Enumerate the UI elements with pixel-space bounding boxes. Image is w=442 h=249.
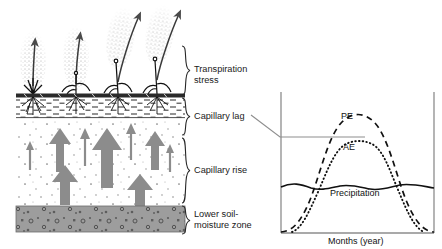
zone-label-line2: stress: [194, 75, 247, 86]
zone-label-capillary-lag: Capillary lag: [194, 111, 245, 122]
topsoil-hatch-band: [16, 97, 185, 118]
zone-label-line1: Lower soil-: [194, 209, 252, 220]
series-pe-curve: [281, 115, 434, 233]
hydrograph-chart: PE AE Precipitation: [278, 92, 440, 244]
zone-label-line2: moisture zone: [194, 220, 252, 231]
brace-transpiration-stress: [182, 46, 190, 95]
series-label-ae: AE: [343, 142, 355, 152]
series-label-precipitation: Precipitation: [330, 188, 380, 198]
zone-label-line1: Capillary lag: [194, 111, 245, 122]
zone-label-capillary-rise: Capillary rise: [194, 165, 247, 176]
zone-label-transpiration-stress: Transpiration stress: [194, 64, 247, 86]
series-label-pe: PE: [341, 111, 353, 121]
figure-root: Transpiration stress Capillary lag Capil…: [0, 0, 442, 249]
zone-label-line1: Transpiration: [194, 64, 247, 75]
zone-label-line1: Capillary rise: [194, 165, 247, 176]
capillary-rise-zone: [16, 118, 185, 207]
chart-xaxis-label: Months (year): [328, 236, 384, 246]
soil-cross-section-diagram: [0, 0, 200, 249]
zone-label-lower-soil-moisture-zone: Lower soil- moisture zone: [194, 209, 252, 231]
ground-surface-line: [16, 94, 185, 98]
lower-soil-moisture-zone-band: [16, 206, 185, 232]
